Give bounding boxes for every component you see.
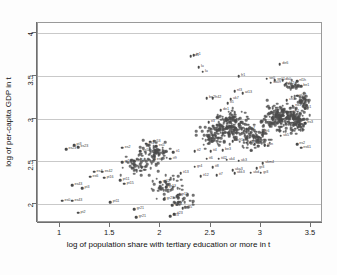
- data-point: [162, 152, 165, 155]
- data-point: [101, 170, 104, 173]
- data-point: [262, 125, 265, 128]
- data-point-label: ukm4: [265, 161, 274, 165]
- data-point: [253, 123, 256, 126]
- data-point: [295, 107, 298, 110]
- data-point: [306, 107, 309, 110]
- data-point: [61, 199, 64, 202]
- data-point: [129, 165, 132, 168]
- data-point: [277, 129, 280, 132]
- data-point: [301, 114, 304, 117]
- data-point: [292, 121, 295, 124]
- data-point: [127, 162, 130, 165]
- data-point: [289, 114, 292, 117]
- data-point: [93, 170, 96, 173]
- data-point: [305, 105, 308, 108]
- data-point: [266, 77, 269, 80]
- data-point: [228, 143, 231, 146]
- data-point: [221, 149, 224, 152]
- data-point: [301, 126, 304, 129]
- data-point: [285, 117, 288, 120]
- data-point: [169, 215, 172, 218]
- data-point: [249, 141, 252, 144]
- x-tick-mark: [310, 223, 311, 227]
- data-point: [148, 174, 151, 177]
- y-tick-label: 3: [26, 118, 35, 122]
- data-point: [158, 187, 161, 190]
- data-point: [262, 132, 265, 135]
- data-point: [247, 118, 250, 121]
- data-point: [285, 112, 288, 115]
- data-point: [243, 141, 246, 144]
- data-point: [103, 176, 106, 179]
- data-point: [120, 174, 123, 177]
- data-point: [218, 128, 221, 131]
- data-point: [270, 82, 273, 85]
- data-point: [270, 117, 273, 120]
- data-point-label: at13: [245, 91, 252, 95]
- data-point-label: ukk3: [237, 172, 245, 176]
- data-point: [300, 99, 303, 102]
- data-point: [219, 140, 222, 143]
- data-point-label: be1: [303, 84, 309, 88]
- data-point: [133, 208, 136, 211]
- y-tick-label: 2: [26, 203, 35, 207]
- data-point: [186, 194, 189, 197]
- data-point: [276, 111, 279, 114]
- data-point: [290, 87, 293, 90]
- data-point: [197, 66, 200, 69]
- data-point: [189, 55, 192, 58]
- data-point: [236, 128, 239, 131]
- data-point: [257, 139, 260, 142]
- data-point: [140, 169, 143, 172]
- data-point: [298, 85, 301, 88]
- data-point: [224, 127, 227, 130]
- data-point: [193, 165, 196, 168]
- data-point: [301, 119, 304, 122]
- data-point: [261, 162, 264, 165]
- data-point: [140, 174, 143, 177]
- data-point: [227, 132, 230, 135]
- data-point: [154, 149, 157, 152]
- data-point-label: it6: [209, 157, 213, 161]
- data-point: [276, 106, 279, 109]
- data-point: [299, 119, 302, 122]
- data-point: [216, 140, 219, 143]
- data-point: [71, 184, 74, 187]
- data-point: [144, 168, 147, 171]
- data-point: [136, 157, 139, 160]
- data-point-label: gr21: [137, 208, 144, 212]
- data-point: [282, 119, 285, 122]
- data-point: [177, 197, 180, 200]
- data-point: [229, 121, 232, 124]
- data-point: [279, 63, 282, 66]
- data-point: [176, 187, 179, 190]
- data-point-label: fr1: [241, 74, 245, 78]
- data-point: [178, 193, 181, 196]
- data-point: [145, 152, 148, 155]
- data-point-label: it9: [173, 157, 177, 161]
- data-point-label: es0: [64, 199, 70, 203]
- data-point: [202, 143, 205, 146]
- data-point: [266, 99, 269, 102]
- data-point-label: es3: [307, 121, 313, 125]
- data-point: [247, 143, 250, 146]
- data-point-label: fr42: [215, 96, 221, 100]
- data-point: [195, 134, 198, 137]
- data-point: [309, 114, 312, 117]
- data-point: [208, 142, 211, 145]
- data-point-label: uk5: [283, 134, 289, 138]
- data-point: [142, 147, 145, 150]
- data-point: [201, 138, 204, 141]
- data-point-label: de6: [282, 62, 288, 66]
- data-point: [183, 201, 186, 204]
- data-point: [280, 135, 283, 138]
- data-point: [145, 160, 148, 163]
- data-point: [268, 141, 271, 144]
- data-point: [302, 128, 305, 131]
- y-axis-title: log of per-capita GDP in t: [4, 77, 13, 167]
- data-point-label: uk3: [241, 159, 247, 163]
- data-point: [242, 146, 245, 149]
- data-point-label: it13: [183, 172, 189, 176]
- data-point-label: es23: [68, 148, 76, 152]
- data-point: [235, 120, 238, 123]
